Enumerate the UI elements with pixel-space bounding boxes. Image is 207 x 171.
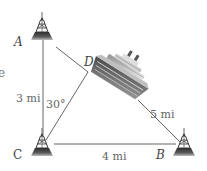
point-label-C: C <box>13 149 22 161</box>
line-DB <box>138 100 180 142</box>
edge-text-fragment: e <box>0 67 5 79</box>
point-label-D: D <box>84 56 94 68</box>
radio-tower-icon-B <box>173 128 195 156</box>
radio-tower-icon-C <box>31 128 53 156</box>
point-label-A: A <box>14 36 23 48</box>
distance-label-AC: 3 mi <box>16 93 40 104</box>
diagram-graphics <box>0 0 207 171</box>
point-label-B: B <box>156 149 165 161</box>
triangulation-diagram: A D C B 3 mi 30° 4 mi 5 mi e <box>0 0 207 171</box>
angle-label-ACD: 30° <box>46 99 66 110</box>
distance-label-CB: 4 mi <box>102 151 126 162</box>
radio-tower-icon-A <box>31 12 53 40</box>
cruise-ship-icon <box>88 36 161 102</box>
distance-label-DB: 5 mi <box>150 109 174 120</box>
